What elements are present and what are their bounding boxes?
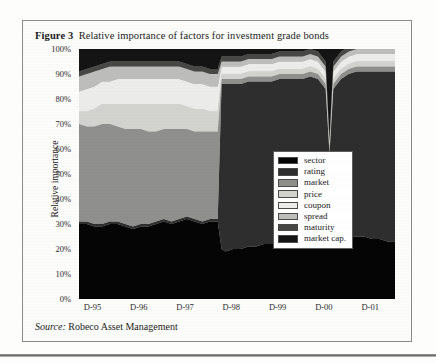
y-tick-label: 90% <box>55 69 71 79</box>
page-divider-rule <box>0 354 436 357</box>
legend-label: maturity <box>304 223 335 232</box>
legend-swatch-icon <box>278 202 298 210</box>
x-tick-label: D-96 <box>130 302 147 312</box>
legend-label: rating <box>304 167 325 176</box>
source-text: Robeco Asset Management <box>68 321 177 332</box>
y-tick-label: 0% <box>60 294 71 304</box>
legend-label: coupon <box>304 201 331 210</box>
y-tick-label: 50% <box>55 169 71 179</box>
figure-page: Figure 3 Relative importance of factors … <box>0 0 436 363</box>
y-tick-label: 30% <box>55 219 71 229</box>
legend-item: sector <box>278 155 346 166</box>
legend-item: market <box>278 177 346 188</box>
legend-item: rating <box>278 166 346 177</box>
y-tick-label: 60% <box>55 144 71 154</box>
legend-swatch-icon <box>278 157 298 165</box>
source-prefix: Source: <box>35 321 66 332</box>
legend-swatch-icon <box>278 213 298 221</box>
figure-box: Figure 3 Relative importance of factors … <box>22 20 412 342</box>
legend-label: sector <box>304 156 326 165</box>
y-tick-label: 10% <box>55 269 71 279</box>
legend-swatch-icon <box>278 179 298 187</box>
chart-area: Relative importance 0%10%20%30%40%50%60%… <box>23 21 413 343</box>
legend-item: market cap. <box>278 233 346 244</box>
legend-item: spread <box>278 211 346 222</box>
x-tick-label: D-00 <box>315 302 332 312</box>
legend-item: price <box>278 189 346 200</box>
x-tick-label: D-99 <box>269 302 286 312</box>
x-tick-label: D-98 <box>223 302 240 312</box>
y-tick-label: 20% <box>55 244 71 254</box>
legend-label: spread <box>304 212 328 221</box>
legend-swatch-icon <box>278 224 298 232</box>
y-tick-label: 100% <box>51 44 71 54</box>
y-tick-label: 40% <box>55 194 71 204</box>
figure-source: Source: Robeco Asset Management <box>35 321 178 332</box>
y-axis-ticks: 0%10%20%30%40%50%60%70%80%90%100% <box>29 49 75 299</box>
legend-label: price <box>304 190 322 199</box>
y-tick-label: 80% <box>55 94 71 104</box>
chart-legend: sectorratingmarketpricecouponspreadmatur… <box>273 151 353 249</box>
legend-item: maturity <box>278 222 346 233</box>
x-axis-ticks: D-95D-96D-97D-98D-99D-00D-01 <box>79 302 395 318</box>
legend-swatch-icon <box>278 190 298 198</box>
legend-label: market <box>304 178 329 187</box>
legend-swatch-icon <box>278 168 298 176</box>
legend-swatch-icon <box>278 235 298 243</box>
legend-label: market cap. <box>304 234 346 243</box>
x-tick-label: D-97 <box>176 302 193 312</box>
x-tick-label: D-01 <box>361 302 378 312</box>
legend-item: coupon <box>278 200 346 211</box>
y-tick-label: 70% <box>55 119 71 129</box>
x-tick-label: D-95 <box>84 302 101 312</box>
